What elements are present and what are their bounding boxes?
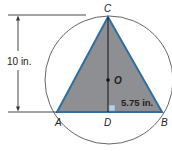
vertex-label-c: C [104, 3, 112, 14]
right-angle-marker [109, 105, 115, 111]
geometry-diagram: 10 in. 5.75 in. C A D B O [0, 0, 172, 151]
arrowhead-down-icon [16, 107, 20, 112]
height-label: 10 in. [7, 56, 31, 67]
center-point-o [106, 78, 110, 82]
vertex-label-a: A [54, 117, 62, 128]
arrowhead-up-icon [16, 16, 20, 21]
vertex-label-b: B [161, 117, 168, 128]
center-label-o: O [114, 75, 122, 86]
half-base-label: 5.75 in. [121, 97, 153, 108]
point-label-d: D [104, 117, 111, 128]
